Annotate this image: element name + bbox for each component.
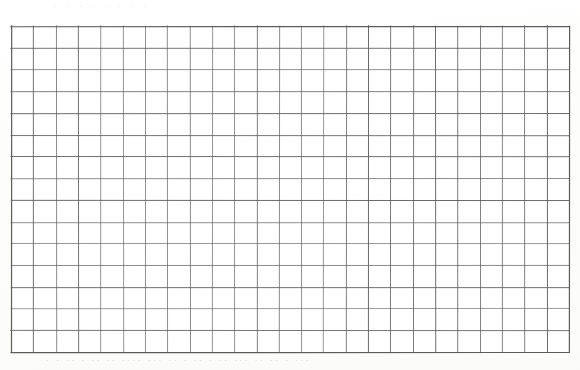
ghost-text-bottom: · · ·· · ·· ·· ···· ··· ·· · ·· · ·· ···… (0, 353, 580, 370)
grid-background (11, 26, 569, 352)
ghost-text-top: · · · · · · · · (0, 0, 580, 16)
graph-paper-grid (9, 24, 571, 354)
scanned-sheet: · · · · · · · · · · ·· · · ·· · · · · ··… (0, 0, 580, 370)
grid-svg (9, 24, 571, 354)
